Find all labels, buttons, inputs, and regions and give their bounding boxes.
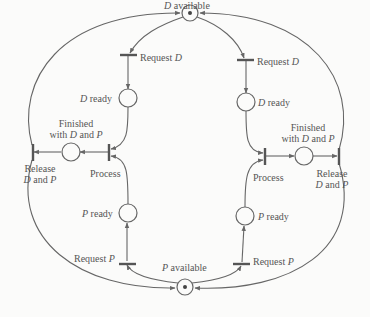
arc-d-available-to-right-request-d: [197, 17, 244, 58]
place-left-d-ready: [119, 89, 137, 107]
label-left-d-ready: D ready: [80, 93, 112, 104]
arc-right-p-ready-to-process: [245, 160, 263, 207]
arc-left-d-ready-to-process: [111, 107, 128, 149]
place-left-finished: [62, 143, 80, 161]
label-left-request-d: Request D: [140, 52, 182, 63]
arc-right-request-p-to-p-ready: [242, 226, 244, 262]
label-right-finished: Finished with D and P: [276, 122, 340, 144]
label-left-p-ready: P ready: [82, 208, 113, 219]
arc-right-d-ready-to-process: [246, 111, 263, 153]
label-d-available: D available: [164, 0, 210, 11]
token-p-available: [183, 285, 187, 289]
label-right-process: Process: [253, 172, 284, 183]
place-right-d-ready: [237, 93, 255, 111]
label-right-p-ready: P ready: [258, 211, 289, 222]
place-right-finished: [295, 147, 313, 165]
label-left-request-p: Request P: [74, 253, 115, 264]
label-right-release: Release D and P: [310, 168, 354, 190]
arc-d-available-to-left-request-d: [130, 17, 183, 53]
token-d-available: [188, 11, 192, 15]
label-right-request-p: Request P: [253, 256, 294, 267]
place-left-p-ready: [119, 204, 137, 222]
petri-net-diagram: D available Request D Request D D ready …: [0, 0, 370, 317]
label-right-d-ready: D ready: [258, 97, 290, 108]
label-right-request-d: Request D: [257, 56, 299, 67]
place-right-p-ready: [236, 207, 254, 225]
label-left-release: Release D and P: [18, 163, 62, 185]
label-left-process: Process: [90, 168, 121, 179]
label-left-finished: Finished with D and P: [44, 118, 108, 140]
label-p-available: P available: [162, 262, 207, 273]
arc-left-p-ready-to-process: [111, 156, 128, 204]
